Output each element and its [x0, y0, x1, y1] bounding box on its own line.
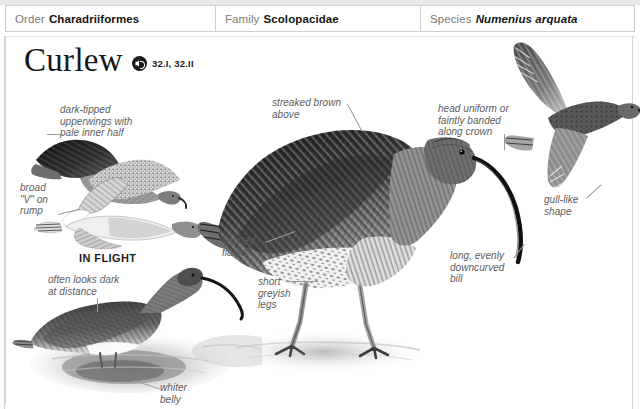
field-guide-page: Order Charadriiformes Family Scolopacida…	[0, 0, 640, 409]
taxonomy-value-family: Scolopacidae	[263, 13, 338, 25]
caption-in-flight: IN FLIGHT	[79, 252, 136, 264]
taxonomy-bar: Order Charadriiformes Family Scolopacida…	[5, 5, 635, 32]
taxonomy-cell-order[interactable]: Order Charadriiformes	[5, 5, 215, 32]
taxonomy-value-order: Charadriiformes	[49, 13, 139, 25]
title-row: Curlew 32.I, 32.II	[24, 44, 194, 77]
annotation-often-looks-dark: often looks dark at distance	[48, 274, 119, 297]
right-margin-rule	[632, 36, 633, 409]
annotation-whiter-belly: whiter belly	[160, 382, 187, 405]
taxonomy-label-order: Order	[15, 13, 45, 25]
left-margin-rule	[4, 36, 5, 409]
speaker-icon[interactable]	[132, 56, 147, 71]
annotation-broad-v-on-rump: broad "V" on rump	[20, 182, 48, 217]
page-title: Curlew	[24, 44, 123, 77]
taxonomy-label-family: Family	[225, 13, 259, 25]
annotation-short-greyish-legs: short greyish legs	[258, 276, 291, 311]
annotation-streaked-brown-above: streaked brown above	[272, 97, 341, 120]
leader-head-uniform	[504, 134, 505, 150]
audio-track-refs: 32.I, 32.II	[152, 58, 194, 69]
annotation-spotted-flanks: spotted flanks	[222, 235, 255, 258]
leader-short-greyish-legs	[288, 281, 318, 282]
page-body	[5, 36, 635, 405]
audio-reference-group[interactable]: 32.I, 32.II	[132, 56, 194, 77]
taxonomy-cell-species[interactable]: Species Numenius arquata	[420, 5, 635, 32]
taxonomy-cell-family[interactable]: Family Scolopacidae	[215, 5, 420, 32]
leader-often-looks-dark	[97, 298, 98, 312]
annotation-downcurved-bill: long, evenly downcurved bill	[450, 250, 504, 285]
leader-dark-tipped-upperwings	[47, 134, 63, 135]
annotation-gull-like-shape: gull-like shape	[544, 194, 578, 217]
annotation-dark-tipped-upperwings: dark-tipped upperwings with pale inner h…	[60, 104, 132, 139]
annotation-head-uniform: head uniform or faintly banded along cro…	[438, 103, 509, 138]
taxonomy-value-species: Numenius arquata	[476, 13, 578, 25]
taxonomy-label-species: Species	[430, 13, 472, 25]
